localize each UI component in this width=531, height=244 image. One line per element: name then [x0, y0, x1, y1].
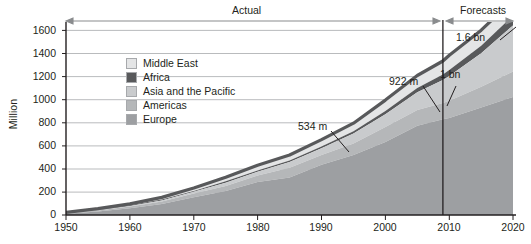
y-tick-600: 600 — [22, 140, 56, 150]
annotation-1bn: 1 bn — [440, 68, 460, 80]
legend-swatch-europe — [126, 114, 137, 125]
legend-item-middle-east[interactable]: Middle East — [126, 56, 235, 70]
y-tick-200: 200 — [22, 186, 56, 196]
y-tick-1200: 1200 — [22, 71, 56, 81]
legend-label-americas: Americas — [143, 100, 187, 111]
y-tick-1400: 1400 — [22, 48, 56, 58]
legend-item-asia-pacific[interactable]: Asia and the Pacific — [126, 84, 235, 98]
legend-item-europe[interactable]: Europe — [126, 112, 235, 126]
x-tick-marks — [66, 215, 513, 220]
legend-label-asia-pacific: Asia and the Pacific — [143, 86, 235, 97]
legend-swatch-americas — [126, 100, 137, 111]
period-label-actual: Actual — [232, 4, 261, 16]
legend-swatch-asia-pacific — [126, 86, 137, 97]
legend-item-americas[interactable]: Americas — [126, 98, 235, 112]
annotation-922m: 922 m — [389, 75, 418, 87]
y-axis-title: Million — [7, 79, 19, 149]
legend-label-europe: Europe — [143, 114, 177, 125]
y-tick-1600: 1600 — [22, 25, 56, 35]
x-tick-2000: 2000 — [365, 222, 405, 233]
chart-legend: Middle East Africa Asia and the Pacific … — [126, 56, 235, 126]
y-tick-0: 0 — [22, 209, 56, 219]
x-tick-1960: 1960 — [110, 222, 150, 233]
annotation-534m: 534 m — [298, 120, 327, 132]
annotation-1-6bn: 1.6 bn — [456, 31, 485, 43]
legend-swatch-africa — [126, 72, 137, 83]
legend-swatch-middle-east — [126, 58, 137, 69]
y-tick-1000: 1000 — [22, 94, 56, 104]
x-tick-1950: 1950 — [46, 222, 86, 233]
period-arrows — [66, 18, 513, 24]
chart-svg — [0, 0, 531, 244]
x-tick-1990: 1990 — [301, 222, 341, 233]
y-tick-800: 800 — [22, 117, 56, 127]
period-label-forecasts: Forecasts — [460, 4, 506, 16]
y-tick-400: 400 — [22, 163, 56, 173]
x-tick-2010: 2010 — [429, 222, 469, 233]
x-tick-1970: 1970 — [174, 222, 214, 233]
legend-item-africa[interactable]: Africa — [126, 70, 235, 84]
legend-label-middle-east: Middle East — [143, 58, 198, 69]
chart-container: Million 1600 1400 1200 1000 800 600 400 … — [0, 0, 531, 244]
x-tick-1980: 1980 — [238, 222, 278, 233]
x-tick-2020: 2020 — [493, 222, 531, 233]
legend-label-africa: Africa — [143, 72, 170, 83]
